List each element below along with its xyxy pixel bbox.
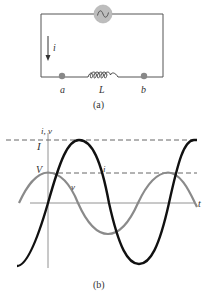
inductor-coil-icon bbox=[88, 72, 118, 78]
circuit-diagram: i a L b (a) bbox=[41, 5, 163, 111]
node-a-label: a bbox=[60, 84, 65, 95]
t-axis-label: t bbox=[198, 198, 201, 209]
node-a bbox=[59, 73, 65, 79]
arrow-head-icon bbox=[46, 55, 51, 61]
waveform-graph: i, v I V i v t (b) bbox=[6, 126, 201, 291]
node-b-label: b bbox=[141, 84, 146, 95]
y-axis-label: i, v bbox=[41, 126, 52, 136]
current-amplitude-label: I bbox=[36, 140, 42, 152]
circuit-wire bbox=[112, 14, 163, 77]
current-label: i bbox=[53, 42, 56, 53]
inductor-label: L bbox=[98, 84, 105, 95]
voltage-curve-label: v bbox=[71, 182, 75, 192]
current-curve-label: i bbox=[103, 164, 106, 174]
circuit-wire bbox=[41, 14, 94, 77]
node-b bbox=[141, 73, 147, 79]
caption-a: (a) bbox=[93, 99, 104, 111]
caption-b: (b) bbox=[93, 279, 105, 291]
inductor-ac-figure: i a L b (a) i, v I V i v t (b) bbox=[0, 0, 207, 304]
